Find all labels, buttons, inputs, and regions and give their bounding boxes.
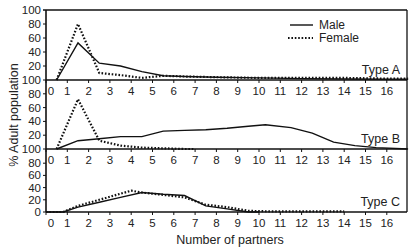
x-tick-label: 10 — [253, 85, 266, 97]
x-tick-label: 15 — [359, 154, 372, 166]
x-tick-label: 16 — [380, 154, 393, 166]
x-tick-label: 4 — [128, 85, 135, 97]
x-tick-label: 6 — [171, 85, 177, 97]
x-tick-label: 2 — [85, 85, 91, 97]
x-tick-label: 7 — [192, 154, 198, 166]
x-tick-label: 14 — [338, 154, 351, 166]
x-tick-label: 0 — [48, 217, 54, 229]
chart-container: 10020406080100012345678910111213141516Ty… — [0, 0, 415, 249]
y-tick-label: 80 — [28, 18, 41, 30]
x-tick-label: 5 — [149, 154, 155, 166]
x-tick-label: 15 — [359, 217, 372, 229]
x-tick-label: 0 — [48, 154, 54, 166]
x-tick-label: 10 — [253, 217, 266, 229]
x-tick-label: 1 — [64, 154, 70, 166]
legend-male-label: Male — [319, 18, 345, 32]
x-tick-label: 9 — [234, 85, 240, 97]
x-tick-label: 12 — [295, 154, 308, 166]
y-tick-label: 0 — [35, 206, 41, 218]
y-tick-label: 40 — [28, 182, 41, 194]
x-tick-label: 14 — [338, 217, 351, 229]
x-tick-label: 2 — [85, 154, 91, 166]
x-tick-label: 5 — [149, 85, 155, 97]
x-tick-label: 5 — [149, 217, 155, 229]
x-tick-label: 1 — [64, 217, 70, 229]
y-axis-title: % Adult population — [7, 63, 21, 167]
y-tick-label: 80 — [28, 157, 41, 169]
x-tick-label: 3 — [107, 217, 113, 229]
x-tick-label: 8 — [213, 154, 219, 166]
y-tick-label: 40 — [28, 115, 41, 127]
x-tick-label: 4 — [128, 154, 135, 166]
x-tick-label: 8 — [213, 217, 219, 229]
x-tick-label: 7 — [192, 217, 198, 229]
x-tick-label: 8 — [213, 85, 219, 97]
x-tick-label: 16 — [380, 217, 393, 229]
x-tick-label: 15 — [359, 85, 372, 97]
x-tick-label: 12 — [295, 217, 308, 229]
legend-female-label: Female — [319, 31, 359, 45]
x-tick-label: 11 — [274, 217, 286, 229]
x-tick-label: 9 — [234, 217, 240, 229]
x-tick-label: 2 — [85, 217, 91, 229]
x-tick-label: 11 — [274, 154, 286, 166]
series-male-type-c — [46, 193, 259, 213]
y-tick-label: 100 — [22, 4, 41, 16]
y-tick-label: 20 — [28, 194, 41, 206]
x-tick-label: 6 — [171, 217, 177, 229]
x-tick-label: 4 — [128, 217, 135, 229]
panel-label: Type B — [361, 132, 400, 146]
panel-label: Type C — [360, 195, 400, 209]
x-tick-label: 14 — [338, 85, 351, 97]
y-tick-label: 20 — [28, 60, 41, 72]
y-tick-label: 60 — [28, 169, 41, 181]
series-male-type-b — [57, 125, 409, 149]
x-tick-label: 16 — [380, 85, 393, 97]
x-tick-label: 6 — [171, 154, 177, 166]
x-axis-title: Number of partners — [176, 233, 284, 247]
line-chart: 10020406080100012345678910111213141516Ty… — [0, 0, 415, 249]
x-tick-label: 0 — [48, 85, 54, 97]
series-female-type-c — [46, 191, 344, 212]
x-tick-label: 10 — [253, 154, 266, 166]
x-tick-label: 11 — [274, 85, 286, 97]
x-tick-label: 13 — [317, 85, 330, 97]
panel-label: Type A — [362, 63, 401, 77]
x-tick-label: 9 — [234, 154, 240, 166]
y-tick-label: 60 — [28, 32, 41, 44]
y-tick-label: 100 — [22, 143, 41, 155]
y-tick-label: 80 — [28, 88, 41, 100]
x-tick-label: 3 — [107, 154, 113, 166]
y-tick-label: 100 — [22, 74, 41, 86]
x-tick-label: 13 — [317, 154, 330, 166]
y-tick-label: 20 — [28, 129, 41, 141]
x-tick-label: 1 — [64, 85, 70, 97]
y-tick-label: 60 — [28, 102, 41, 114]
x-tick-label: 3 — [107, 85, 113, 97]
x-tick-label: 7 — [192, 85, 198, 97]
x-tick-label: 12 — [295, 85, 308, 97]
x-tick-label: 13 — [317, 217, 330, 229]
y-tick-label: 40 — [28, 46, 41, 58]
